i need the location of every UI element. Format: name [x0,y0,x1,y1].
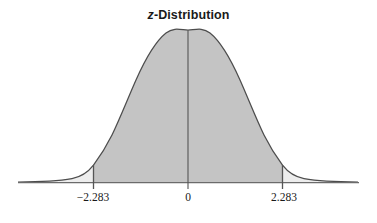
left-tail-shading [18,165,94,182]
right-tail-shading [283,165,359,182]
x-axis-tick-label-zero: 0 [153,191,223,203]
normal-curve-plot [0,0,377,223]
z-distribution-figure: z-Distribution −2.283 0 2.283 [0,0,377,223]
x-axis-tick-label-negative: −2.283 [58,191,128,203]
x-axis-tick-label-positive: 2.283 [249,191,319,203]
